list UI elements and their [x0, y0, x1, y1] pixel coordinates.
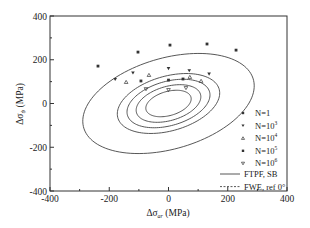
y-tick-label: 400 — [33, 12, 48, 22]
legend-line-item: FTPF, SB — [220, 169, 278, 179]
y-tick-label: -400 — [30, 187, 48, 197]
data-point — [97, 65, 100, 68]
x-tick-label: 200 — [221, 194, 236, 204]
data-point — [140, 80, 143, 83]
plot-frame — [50, 16, 287, 191]
svg-text:N=106: N=106 — [255, 157, 277, 168]
svg-text:N=1: N=1 — [255, 108, 270, 118]
legend-item: N=1 — [242, 108, 270, 118]
data-point — [182, 78, 185, 81]
x-tick-label: 0 — [166, 194, 171, 204]
data-point — [167, 67, 171, 70]
legend-item: N=103 — [241, 120, 277, 131]
ellipse-N=10⁶ — [146, 90, 191, 117]
data-point — [184, 87, 188, 90]
y-tick-label: -200 — [30, 143, 48, 153]
data-point — [113, 78, 117, 81]
x-tick-label: -200 — [101, 194, 119, 204]
stress-ellipse-chart: -400-20002004004002000-200-400 Δσar (MPa… — [0, 0, 310, 228]
svg-text:FWE, ref 0°: FWE, ref 0° — [244, 182, 285, 192]
y-tick-label: 0 — [42, 99, 47, 109]
legend-line-item: FWE, ref 0° — [220, 182, 285, 192]
legend-item: N=106 — [241, 157, 277, 168]
data-point — [137, 51, 140, 54]
y-axis-label: Δσψ (MPa) — [15, 83, 26, 125]
data-point — [124, 80, 128, 83]
data-point — [188, 75, 192, 78]
svg-text:FTPF, SB: FTPF, SB — [244, 169, 278, 179]
data-point — [206, 43, 209, 46]
axis-ticks — [50, 16, 287, 191]
svg-text:N=104: N=104 — [255, 132, 277, 143]
legend-item: N=105 — [242, 145, 278, 156]
legend-item: N=104 — [241, 132, 277, 143]
ellipse-N=10³ — [117, 74, 219, 134]
x-axis-label: Δσar (MPa) — [146, 208, 189, 219]
svg-text:N=105: N=105 — [255, 145, 277, 156]
data-point — [199, 79, 203, 82]
svg-text:N=103: N=103 — [255, 120, 277, 131]
data-point — [207, 73, 211, 76]
data-point — [169, 44, 172, 47]
x-tick-label: 400 — [280, 194, 295, 204]
data-point — [131, 71, 135, 74]
data-point — [167, 79, 170, 82]
data-point — [147, 73, 151, 76]
y-tick-label: 200 — [33, 55, 48, 65]
data-point — [235, 49, 238, 52]
legend: N=1N=103N=104N=105N=106FTPF, SBFWE, ref … — [220, 108, 285, 192]
data-point — [187, 69, 191, 72]
